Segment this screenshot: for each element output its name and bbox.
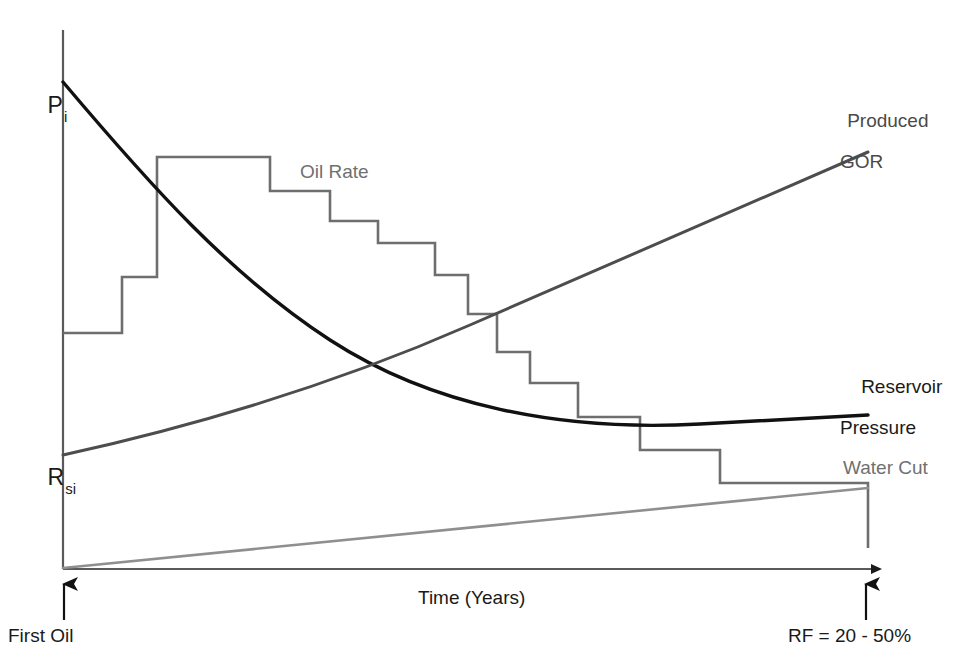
pi-base: P xyxy=(48,92,63,118)
pi-subscript: i xyxy=(64,108,67,125)
callout-recovery-factor: RF = 20 - 50% xyxy=(788,626,911,647)
series-water-cut xyxy=(63,488,868,568)
x-axis-title: Time (Years) xyxy=(418,588,525,609)
production-profile-chart xyxy=(0,0,960,672)
reservoir-pressure-line-1: Reservoir xyxy=(861,376,942,397)
produced-gor-line-1: Produced xyxy=(847,110,928,131)
series-reservoir-pressure xyxy=(63,82,868,425)
y-axis-label-solution-gor: Rsi xyxy=(22,440,75,518)
rsi-base: R xyxy=(48,464,65,490)
y-axis-label-initial-pressure: Pi xyxy=(22,68,66,146)
annotation-water-cut: Water Cut xyxy=(843,458,928,479)
rsi-subscript: si xyxy=(65,480,76,497)
produced-gor-line-2: GOR xyxy=(826,152,928,173)
callout-first-oil: First Oil xyxy=(8,626,73,647)
chart-canvas: Pi Rsi Oil Rate Produced GOR Reservoir P… xyxy=(0,0,960,672)
reservoir-pressure-line-2: Pressure xyxy=(840,418,942,439)
series-produced-gor xyxy=(63,152,868,455)
annotation-oil-rate: Oil Rate xyxy=(300,162,369,183)
annotation-produced-gor: Produced GOR xyxy=(826,90,928,213)
